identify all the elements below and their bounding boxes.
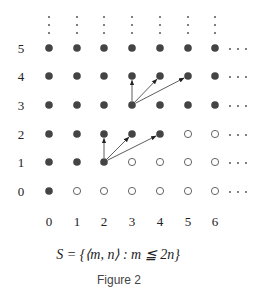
hollow-point <box>73 187 80 194</box>
arrow <box>107 137 129 159</box>
y-label: 3 <box>18 98 25 113</box>
filled-point <box>100 158 108 166</box>
filled-point <box>128 130 136 138</box>
x-label: 2 <box>101 214 108 229</box>
y-label: 5 <box>18 41 25 56</box>
x-label: 0 <box>46 214 53 229</box>
y-label: 0 <box>18 184 25 199</box>
ellipsis-dot <box>237 76 239 78</box>
set-formula: S = {⟨m, n⟩ : m ≦ 2n} <box>56 247 180 262</box>
hollow-point <box>184 187 191 194</box>
filled-point <box>73 130 81 138</box>
filled-point <box>128 101 136 109</box>
filled-point <box>128 72 136 80</box>
ellipsis-dot <box>131 16 133 18</box>
filled-point <box>156 101 164 109</box>
ellipsis-dot <box>237 105 239 107</box>
filled-point <box>184 44 192 52</box>
ellipsis-dot <box>214 32 216 34</box>
ellipsis-dot <box>237 48 239 50</box>
filled-point <box>73 72 81 80</box>
ellipsis-dot <box>245 134 247 136</box>
y-label: 4 <box>18 69 25 84</box>
x-label: 6 <box>212 214 219 229</box>
hollow-point <box>184 158 191 165</box>
hollow-point <box>100 187 107 194</box>
x-axis-labels: 0123456 <box>46 214 219 229</box>
ellipsis-dot <box>229 76 231 78</box>
ellipsis-dot <box>159 24 161 26</box>
filled-point <box>73 101 81 109</box>
ellipsis-dot <box>159 16 161 18</box>
ellipsis-dot <box>245 105 247 107</box>
x-label: 5 <box>185 214 192 229</box>
ellipsis-dot <box>187 24 189 26</box>
x-label: 4 <box>157 214 164 229</box>
arrow <box>108 136 156 160</box>
hollow-point <box>128 158 135 165</box>
horizontal-ellipses <box>229 48 247 193</box>
ellipsis-dot <box>131 32 133 34</box>
y-label: 2 <box>18 127 25 142</box>
filled-point <box>100 101 108 109</box>
filled-point <box>45 187 53 195</box>
ellipsis-dot <box>229 162 231 164</box>
x-label: 3 <box>129 214 136 229</box>
filled-point <box>156 72 164 80</box>
ellipsis-dot <box>103 32 105 34</box>
filled-point <box>45 130 53 138</box>
filled-point <box>45 101 53 109</box>
filled-point <box>73 44 81 52</box>
filled-point <box>73 158 81 166</box>
filled-point <box>184 72 192 80</box>
y-label: 1 <box>18 155 25 170</box>
filled-point <box>211 44 219 52</box>
ellipsis-dot <box>214 24 216 26</box>
filled-point <box>45 158 53 166</box>
lattice-points <box>45 44 219 195</box>
ellipsis-dot <box>237 134 239 136</box>
ellipsis-dot <box>103 16 105 18</box>
filled-point <box>156 130 164 138</box>
hollow-point <box>211 187 218 194</box>
ellipsis-dot <box>103 24 105 26</box>
ellipsis-dot <box>159 32 161 34</box>
ellipsis-dot <box>131 24 133 26</box>
y-axis-labels: 012345 <box>18 41 25 199</box>
ellipsis-dot <box>76 32 78 34</box>
ellipsis-dot <box>237 191 239 193</box>
ellipsis-dot <box>76 16 78 18</box>
figure-caption: Figure 2 <box>97 273 141 287</box>
arrow <box>135 79 157 102</box>
hollow-point <box>211 130 218 137</box>
vertical-ellipses <box>48 16 216 34</box>
ellipsis-dot <box>229 105 231 107</box>
ellipsis-dot <box>229 134 231 136</box>
ellipsis-dot <box>48 32 50 34</box>
filled-point <box>128 44 136 52</box>
x-label: 1 <box>74 214 81 229</box>
filled-point <box>100 130 108 138</box>
filled-point <box>184 101 192 109</box>
arrows <box>104 78 184 160</box>
ellipsis-dot <box>48 16 50 18</box>
hollow-point <box>184 130 191 137</box>
ellipsis-dot <box>48 24 50 26</box>
filled-point <box>156 44 164 52</box>
filled-point <box>45 72 53 80</box>
ellipsis-dot <box>245 191 247 193</box>
ellipsis-dot <box>214 16 216 18</box>
ellipsis-dot <box>245 48 247 50</box>
ellipsis-dot <box>237 162 239 164</box>
arrow <box>136 78 185 103</box>
lattice-diagram: 012345 0123456 S = {⟨m, n⟩ : m ≦ 2n} Fig… <box>0 0 259 290</box>
ellipsis-dot <box>76 24 78 26</box>
ellipsis-dot <box>245 162 247 164</box>
filled-point <box>100 44 108 52</box>
hollow-point <box>128 187 135 194</box>
ellipsis-dot <box>229 48 231 50</box>
filled-point <box>211 101 219 109</box>
ellipsis-dot <box>187 16 189 18</box>
ellipsis-dot <box>229 191 231 193</box>
filled-point <box>100 72 108 80</box>
